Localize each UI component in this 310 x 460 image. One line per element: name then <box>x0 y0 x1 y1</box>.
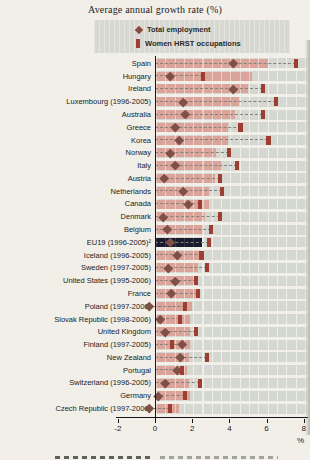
x-tick-label: 2 <box>182 424 202 433</box>
women-hrst-marker <box>198 200 202 209</box>
cropped-caption-sliver <box>160 456 278 459</box>
women-hrst-marker <box>168 404 172 413</box>
cropped-caption-sliver <box>55 456 150 459</box>
country-label: Spain <box>0 59 151 68</box>
women-hrst-marker <box>238 123 242 132</box>
women-hrst-marker <box>207 238 211 247</box>
country-label: Portugal <box>0 366 151 375</box>
women-hrst-marker <box>194 276 198 285</box>
women-hrst-marker <box>266 136 270 145</box>
growth-dash-line <box>155 139 268 140</box>
country-label: Italy <box>0 161 151 170</box>
growth-dash-line <box>155 127 241 128</box>
x-axis-unit-label: % <box>284 436 304 445</box>
women-hrst-marker <box>194 327 198 336</box>
country-label: Iceland (1996-2005) <box>0 251 151 260</box>
country-label: Norway <box>0 148 151 157</box>
women-hrst-marker <box>235 161 239 170</box>
women-hrst-marker <box>196 289 200 298</box>
women-hrst-marker <box>178 315 182 324</box>
growth-dash-line <box>155 165 237 166</box>
country-label: Denmark <box>0 212 151 221</box>
growth-dash-line <box>155 101 276 102</box>
women-hrst-marker <box>183 391 187 400</box>
country-label: France <box>0 289 151 298</box>
women-hrst-marker <box>201 72 205 81</box>
x-tick-label: -2 <box>108 424 128 433</box>
x-axis-line <box>116 417 308 418</box>
growth-dash-line <box>155 114 263 115</box>
country-label: New Zealand <box>0 353 151 362</box>
growth-dash-line <box>155 190 222 191</box>
women-hrst-marker <box>218 174 222 183</box>
x-axis-tick <box>192 419 193 423</box>
x-axis-tick <box>229 419 230 423</box>
country-label: EU19 (1996-2005)² <box>0 238 151 247</box>
women-hrst-marker <box>205 263 209 272</box>
women-hrst-marker <box>183 302 187 311</box>
country-label: Luxembourg (1996-2005) <box>0 97 151 106</box>
country-label: Hungary <box>0 72 151 81</box>
country-label: Australia <box>0 110 151 119</box>
scanned-chart-page: Average annual growth rate (%) Total emp… <box>0 0 310 460</box>
growth-dash-line <box>155 63 296 64</box>
country-label: Netherlands <box>0 187 151 196</box>
country-label: Canada <box>0 199 151 208</box>
country-label: Finland (1997-2005) <box>0 340 151 349</box>
x-axis-tick <box>267 419 268 423</box>
y-axis-line <box>155 56 157 422</box>
country-label: Slovak Republic (1998-2006) <box>0 315 151 324</box>
country-label: Greece <box>0 123 151 132</box>
country-label: Poland (1997-2006) <box>0 302 151 311</box>
women-hrst-marker <box>180 366 184 375</box>
country-label: United Kingdom <box>0 327 151 336</box>
country-label: Belgium <box>0 225 151 234</box>
growth-dash-line <box>155 293 198 294</box>
women-hrst-marker <box>199 251 203 260</box>
women-hrst-marker <box>205 353 209 362</box>
women-hrst-marker <box>220 187 224 196</box>
country-label: Ireland <box>0 84 151 93</box>
women-hrst-marker <box>227 148 231 157</box>
page-edge-shadow <box>305 40 310 435</box>
country-label: Korea <box>0 136 151 145</box>
country-label: Czech Republic (1997-2006) <box>0 404 151 413</box>
x-axis-tick <box>118 419 119 423</box>
x-tick-label: 4 <box>219 424 239 433</box>
women-hrst-marker <box>274 97 278 106</box>
country-label: United States (1995-2006) <box>0 276 151 285</box>
country-label: Germany <box>0 391 151 400</box>
growth-dash-line <box>155 242 209 243</box>
women-hrst-marker <box>170 340 174 349</box>
country-label: Switzerland (1996-2005) <box>0 378 151 387</box>
country-label: Austria <box>0 174 151 183</box>
women-hrst-marker <box>261 110 265 119</box>
women-hrst-marker <box>218 212 222 221</box>
x-tick-label: 0 <box>145 424 165 433</box>
growth-dash-line <box>155 88 263 89</box>
women-hrst-marker <box>294 59 298 68</box>
women-hrst-marker <box>198 379 202 388</box>
x-tick-label: 6 <box>257 424 277 433</box>
growth-dash-line <box>155 75 203 76</box>
women-hrst-marker <box>209 225 213 234</box>
country-label: Sweden (1997-2005) <box>0 263 151 272</box>
women-hrst-marker <box>261 84 265 93</box>
